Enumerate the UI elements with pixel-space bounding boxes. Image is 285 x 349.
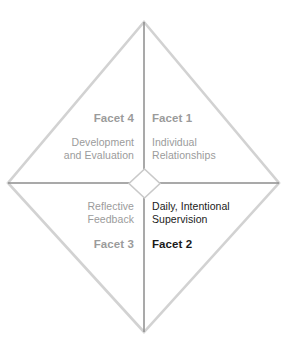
facet-2-description: Daily, Intentional Supervision [152,200,230,226]
facet-2-title: Facet 2 [152,238,230,251]
facet-3-description-line-2: Feedback [87,213,134,226]
facet-3-description-line-1: Reflective [87,200,134,213]
quadrant-facet-1: Facet 1 Individual Relationships [152,112,216,162]
facet-3-description: Reflective Feedback [87,200,134,226]
quadrant-facet-2: Daily, Intentional Supervision Facet 2 [152,200,230,251]
facet-2-description-line-1: Daily, Intentional [152,200,230,213]
facet-3-title: Facet 3 [87,238,134,251]
facet-1-title: Facet 1 [152,112,216,125]
diamond-shape-group [0,0,285,349]
facet-4-title: Facet 4 [64,112,134,125]
facet-1-description-line-2: Relationships [152,149,216,162]
diagram-canvas: Facet 4 Development and Evaluation Facet… [0,0,285,349]
facet-4-description: Development and Evaluation [64,136,134,162]
quadrant-facet-4: Facet 4 Development and Evaluation [64,112,134,162]
facet-1-description: Individual Relationships [152,136,216,162]
facet-4-description-line-2: and Evaluation [64,149,134,162]
facet-4-description-line-1: Development [64,136,134,149]
facet-2-description-line-2: Supervision [152,213,230,226]
facet-1-description-line-1: Individual [152,136,216,149]
quadrant-facet-3: Reflective Feedback Facet 3 [87,200,134,251]
